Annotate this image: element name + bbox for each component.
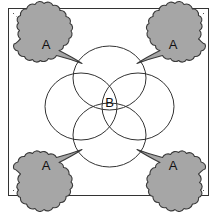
blob-top-right-label: A (169, 37, 178, 52)
center-region-label: B (105, 95, 114, 110)
blob-top-left-label: A (42, 37, 51, 52)
diagram-canvas: A A A A B (0, 0, 219, 212)
blob-bottom-left-label: A (42, 158, 51, 173)
blob-bottom-right-label: A (169, 158, 178, 173)
figure-container: A A A A B (0, 0, 219, 212)
